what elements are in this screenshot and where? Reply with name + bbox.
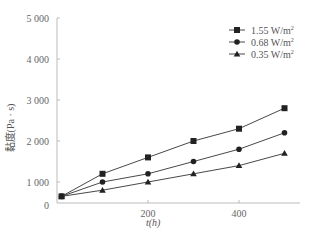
circle-marker-icon bbox=[145, 171, 151, 177]
circle-marker-icon bbox=[191, 159, 197, 165]
y-tick-label: 3 000 bbox=[27, 95, 50, 106]
legend: 1.55 W/m20.68 W/m20.35 W/m2 bbox=[229, 25, 294, 60]
series-circle bbox=[59, 130, 288, 199]
legend-item: 0.68 W/m2 bbox=[229, 37, 294, 48]
y-tick-label: 5 000 bbox=[27, 13, 50, 24]
square-marker-icon bbox=[282, 105, 288, 111]
legend-label: 0.35 W/m2 bbox=[251, 49, 294, 60]
triangle-marker-icon bbox=[281, 150, 288, 156]
y-tick-label: 4 000 bbox=[27, 54, 50, 65]
circle-marker-icon bbox=[100, 179, 106, 185]
series-line bbox=[62, 108, 285, 196]
legend-label: 0.68 W/m2 bbox=[251, 37, 294, 48]
circle-marker-icon bbox=[236, 146, 242, 152]
series-triangle bbox=[58, 150, 288, 199]
series-line bbox=[62, 153, 285, 196]
legend-item: 0.35 W/m2 bbox=[229, 49, 294, 60]
square-marker-icon bbox=[236, 126, 242, 132]
legend-label: 1.55 W/m2 bbox=[251, 25, 294, 36]
circle-marker-icon bbox=[234, 39, 240, 45]
x-tick-label: 400 bbox=[232, 208, 247, 219]
y-tick-label: 2 000 bbox=[27, 136, 50, 147]
origin-label: 0 bbox=[44, 200, 49, 211]
circle-marker-icon bbox=[282, 130, 288, 136]
series-line bbox=[62, 133, 285, 197]
y-tick-label: 1 000 bbox=[27, 177, 50, 188]
y-axis-label: 黏度(Pa · s) bbox=[4, 104, 17, 153]
x-axis-label: t(h) bbox=[146, 217, 161, 229]
viscosity-line-chart: 1 0002 0003 0004 0005 0000200400 1.55 W/… bbox=[0, 0, 321, 243]
square-marker-icon bbox=[100, 171, 106, 177]
square-marker-icon bbox=[234, 27, 240, 33]
legend-item: 1.55 W/m2 bbox=[229, 25, 294, 36]
square-marker-icon bbox=[145, 154, 151, 160]
square-marker-icon bbox=[191, 138, 197, 144]
series-group bbox=[58, 105, 288, 199]
